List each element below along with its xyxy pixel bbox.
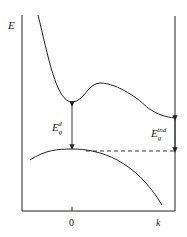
- y-axis-label: E: [8, 20, 15, 31]
- valence-band: [30, 149, 162, 205]
- indirect-gap-label: Egind: [151, 128, 166, 139]
- x-tick-zero-label: 0: [69, 218, 74, 228]
- conduction-band: [38, 15, 175, 118]
- band-diagram: [0, 0, 187, 237]
- direct-gap-sup: d: [58, 120, 62, 128]
- indirect-gap-sub: g: [158, 134, 162, 142]
- direct-gap-sub: g: [59, 128, 63, 136]
- indirect-gap-sup: ind: [157, 126, 166, 134]
- direct-gap-label: Egd: [52, 122, 62, 133]
- x-tick-k-label: k: [156, 218, 160, 228]
